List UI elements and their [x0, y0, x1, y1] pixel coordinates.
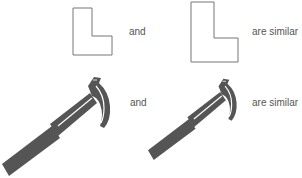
conclusion-label-row1: are similar: [252, 26, 298, 38]
large-hammer-icon: [2, 77, 110, 176]
conclusion-label-row2: are similar: [252, 97, 298, 109]
hammer-grip: [148, 119, 196, 160]
large-l-shape: [191, 2, 238, 62]
small-hammer-icon: [148, 79, 237, 160]
hammer-grip: [2, 126, 60, 176]
connector-label-row1: and: [129, 26, 146, 38]
small-l-shape: [73, 8, 112, 55]
connector-label-row2: and: [130, 97, 147, 109]
